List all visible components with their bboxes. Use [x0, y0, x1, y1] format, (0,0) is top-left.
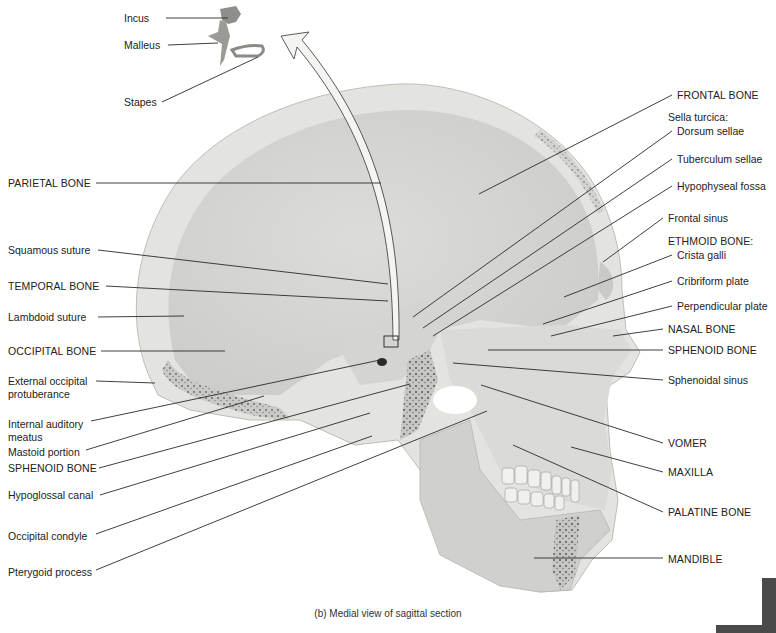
left-label: protuberance [8, 388, 70, 401]
ossicle-label: Malleus [124, 39, 160, 52]
ossicle-label: Incus [124, 12, 149, 25]
figure-caption: (b) Medial view of sagittal section [0, 608, 776, 619]
ossicle-label: Stapes [124, 96, 157, 109]
left-label: Squamous suture [8, 244, 90, 257]
right-label: Perpendicular plate [677, 300, 767, 313]
left-label: Occipital condyle [8, 530, 87, 543]
right-label: Cribriform plate [677, 275, 749, 288]
leader-line [162, 57, 258, 102]
left-label: SPHENOID BONE [8, 462, 97, 475]
leader-line [100, 413, 370, 495]
right-label: Crista galli [677, 249, 726, 262]
leader-line [86, 396, 264, 450]
corner-tab [716, 578, 776, 633]
right-label: ETHMOID BONE: [668, 235, 753, 248]
leader-line [96, 436, 372, 534]
right-label: Frontal sinus [668, 212, 728, 225]
skull-diagram: IncusMalleusStapesPARIETAL BONESquamous … [0, 0, 776, 633]
left-label: Pterygoid process [8, 566, 92, 579]
left-label: External occipital [8, 375, 87, 388]
left-label: Lambdoid suture [8, 311, 86, 324]
leader-line [96, 381, 155, 383]
skull-illustration [0, 0, 776, 633]
left-label: OCCIPITAL BONE [8, 345, 96, 358]
right-label: MAXILLA [668, 466, 713, 479]
left-label: TEMPORAL BONE [8, 280, 99, 293]
left-label: Mastoid portion [8, 446, 80, 459]
left-label: Hypoglossal canal [8, 489, 93, 502]
left-label: Internal auditory [8, 418, 83, 431]
left-label: meatus [8, 431, 42, 444]
right-label: Dorsum sellae [677, 125, 744, 138]
right-label: Hypophyseal fossa [677, 180, 766, 193]
right-label: SPHENOID BONE [668, 344, 757, 357]
right-label: Sphenoidal sinus [668, 374, 748, 387]
right-label: NASAL BONE [668, 323, 736, 336]
leader-line [168, 43, 218, 45]
right-label: VOMER [668, 437, 707, 450]
ossicles-illustration [208, 6, 263, 66]
right-label: PALATINE BONE [668, 506, 751, 519]
right-label: MANDIBLE [668, 553, 722, 566]
right-label: Tuberculum sellae [677, 153, 762, 166]
right-label: Sella turcica: [668, 111, 728, 124]
left-label: PARIETAL BONE [8, 177, 91, 190]
right-label: FRONTAL BONE [677, 89, 759, 102]
